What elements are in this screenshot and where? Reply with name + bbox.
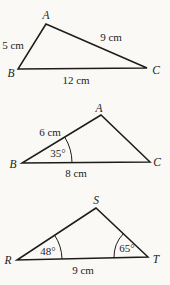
triangle-3-vertex-left-label: R xyxy=(3,254,11,266)
triangle-1-vertex-left-label: B xyxy=(7,67,14,79)
geometry-diagram: A B C 5 cm 9 cm 12 cm A B C 6 cm 35° 8 c… xyxy=(0,0,170,285)
triangle-1-side-bottom-label: 12 cm xyxy=(62,74,90,86)
triangle-2-angle-left-label: 35° xyxy=(50,147,65,159)
triangles-canvas: A B C 5 cm 9 cm 12 cm A B C 6 cm 35° 8 c… xyxy=(0,0,170,285)
triangle-1-outline xyxy=(18,24,147,69)
triangle-3-angle-arc-left xyxy=(55,235,62,259)
triangle-3-vertex-right-label: T xyxy=(153,253,161,265)
triangle-2-side-left-label: 6 cm xyxy=(39,126,61,138)
triangle-2-vertex-right-label: C xyxy=(153,156,161,168)
triangle-3-angle-right-label: 65° xyxy=(119,242,134,254)
triangle-1-side-right-label: 9 cm xyxy=(100,31,122,43)
triangle-figure-3: S R T 48° 65° 9 cm xyxy=(3,194,160,276)
triangle-2-outline xyxy=(22,115,150,163)
triangle-figure-2: A B C 6 cm 35° 8 cm xyxy=(9,102,161,179)
triangle-3-vertex-top-label: S xyxy=(93,194,99,206)
triangle-2-side-bottom-label: 8 cm xyxy=(65,167,87,179)
triangle-2-vertex-left-label: B xyxy=(9,158,16,170)
triangle-2-vertex-top-label: A xyxy=(94,102,103,114)
triangle-figure-1: A B C 5 cm 9 cm 12 cm xyxy=(2,9,160,86)
triangle-1-side-left-label: 5 cm xyxy=(2,39,24,51)
triangle-3-side-bottom-label: 9 cm xyxy=(72,264,94,276)
triangle-1-vertex-right-label: C xyxy=(152,64,160,76)
triangle-1-vertex-top-label: A xyxy=(41,9,50,21)
triangle-2-angle-arc-left xyxy=(65,137,72,163)
triangle-3-angle-left-label: 48° xyxy=(40,245,55,257)
